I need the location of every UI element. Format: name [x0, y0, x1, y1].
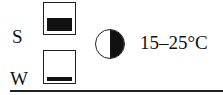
- summer-box-icon: [43, 2, 76, 35]
- winter-fill: [47, 77, 72, 81]
- label-w: W: [10, 68, 28, 90]
- winter-box-icon: [43, 50, 76, 84]
- half-shade-icon: [95, 29, 125, 59]
- baseline-rule: [10, 90, 223, 92]
- half-shade-fill: [110, 30, 124, 58]
- label-s: S: [12, 26, 23, 48]
- temperature-range: 15–25°C: [140, 32, 208, 54]
- summer-fill: [47, 18, 72, 31]
